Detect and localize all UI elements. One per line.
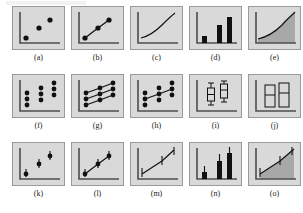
panel-caption-m: (m) [151,189,163,199]
panel-caption-k: (k) [34,189,43,199]
chart-panel-d[interactable] [189,6,242,50]
chart-panel-i[interactable] [189,74,242,118]
panel-row-3: (k) [0,142,303,210]
chart-j-svg [249,75,301,118]
chart-n-svg [190,143,242,186]
chart-panel-o[interactable] [248,142,301,186]
chart-a-svg [13,7,65,50]
panel-cell-f: (f) [11,74,66,131]
panel-caption-h: (h) [152,121,161,131]
panel-grid: (a) (b) [0,6,303,211]
panel-caption-c: (c) [152,53,161,63]
chart-f-svg [13,75,65,118]
panel-cell-b: (b) [70,6,125,63]
chart-panel-m[interactable] [130,142,183,186]
panel-cell-d: (d) [188,6,243,63]
panel-cell-e: (e) [247,6,302,63]
panel-row-2: (f) [0,74,303,142]
chart-panel-g[interactable] [71,74,124,118]
panel-caption-b: (b) [93,53,102,63]
panel-caption-g: (g) [93,121,102,131]
panel-caption-e: (e) [270,53,279,63]
chart-o-svg [249,143,301,186]
panel-caption-i: (i) [212,121,220,131]
chart-panel-f[interactable] [12,74,65,118]
panel-caption-a: (a) [34,53,43,63]
chart-panel-c[interactable] [130,6,183,50]
scan-artifact [6,1,86,5]
panel-caption-o: (o) [270,189,279,199]
chart-panel-a[interactable] [12,6,65,50]
panel-cell-n: (n) [188,142,243,199]
panel-caption-n: (n) [211,189,220,199]
chart-h-svg [131,75,183,118]
panel-cell-a: (a) [11,6,66,63]
chart-panel-k[interactable] [12,142,65,186]
panel-caption-l: (l) [94,189,102,199]
chart-g-svg [72,75,124,118]
panel-cell-m: (m) [129,142,184,199]
panel-cell-o: (o) [247,142,302,199]
panel-cell-h: (h) [129,74,184,131]
chart-panel-h[interactable] [130,74,183,118]
chart-panel-e[interactable] [248,6,301,50]
panel-caption-d: (d) [211,53,220,63]
panel-cell-k: (k) [11,142,66,199]
panel-figure: (a) (b) [0,0,303,213]
chart-e-svg [249,7,301,50]
panel-cell-c: (c) [129,6,184,63]
chart-b-svg [72,7,124,50]
chart-c-svg [131,7,183,50]
panel-cell-g: (g) [70,74,125,131]
chart-l-svg [72,143,124,186]
chart-panel-l[interactable] [71,142,124,186]
panel-cell-j: (j) [247,74,302,131]
chart-panel-j[interactable] [248,74,301,118]
chart-i-svg [190,75,242,118]
panel-caption-j: (j) [271,121,279,131]
panel-cell-l: (l) [70,142,125,199]
panel-caption-f: (f) [35,121,43,131]
chart-panel-n[interactable] [189,142,242,186]
panel-row-1: (a) (b) [0,6,303,74]
panel-cell-i: (i) [188,74,243,131]
chart-d-svg [190,7,242,50]
chart-k-svg [13,143,65,186]
chart-m-svg [131,143,183,186]
chart-panel-b[interactable] [71,6,124,50]
